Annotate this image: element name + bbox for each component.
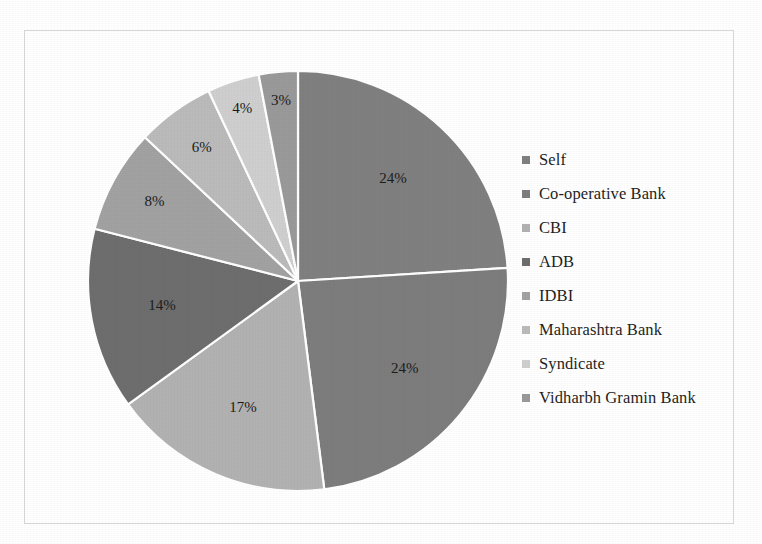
- legend-item-label: CBI: [539, 211, 567, 245]
- legend-item-label: Syndicate: [539, 347, 605, 381]
- legend-item[interactable]: CBI: [520, 211, 740, 245]
- pie-slices: [88, 71, 508, 491]
- legend-swatch-icon: [522, 360, 530, 368]
- legend-item[interactable]: Vidharbh Gramin Bank: [520, 381, 740, 415]
- legend-swatch-icon: [522, 190, 530, 198]
- pie-slice-label: 6%: [192, 139, 212, 155]
- pie-slice-label: 8%: [145, 193, 165, 209]
- pie-slice-label: 17%: [229, 399, 257, 415]
- legend-swatch-icon: [522, 394, 530, 402]
- legend-item[interactable]: ADB: [520, 245, 740, 279]
- chart-legend: SelfCo-operative BankCBIADBIDBIMaharasht…: [520, 143, 740, 415]
- pie-chart-svg: 24%24%17%14%8%6%4%3%: [81, 59, 511, 499]
- chart-frame: 24%24%17%14%8%6%4%3% SelfCo-operative Ba…: [24, 30, 734, 524]
- pie-slice-label: 24%: [379, 170, 407, 186]
- legend-item[interactable]: Self: [520, 143, 740, 177]
- legend-item[interactable]: IDBI: [520, 279, 740, 313]
- pie-slice-label: 4%: [232, 100, 252, 116]
- legend-item[interactable]: Maharashtra Bank: [520, 313, 740, 347]
- legend-swatch-icon: [522, 292, 530, 300]
- legend-item-label: Maharashtra Bank: [539, 313, 662, 347]
- legend-swatch-icon: [522, 258, 530, 266]
- legend-item-label: Self: [539, 143, 566, 177]
- pie-slice-label: 14%: [148, 297, 176, 313]
- legend-swatch-icon: [522, 326, 530, 334]
- legend-swatch-icon: [522, 156, 530, 164]
- legend-item-label: Co-operative Bank: [539, 177, 666, 211]
- legend-item-label: IDBI: [539, 279, 573, 313]
- legend-swatch-icon: [522, 224, 530, 232]
- legend-item[interactable]: Syndicate: [520, 347, 740, 381]
- legend-item-label: Vidharbh Gramin Bank: [539, 381, 696, 415]
- page-root: 24%24%17%14%8%6%4%3% SelfCo-operative Ba…: [0, 0, 762, 544]
- pie-slice[interactable]: [298, 268, 508, 490]
- legend-item[interactable]: Co-operative Bank: [520, 177, 740, 211]
- pie-slice-label: 3%: [271, 92, 291, 108]
- pie-chart: 24%24%17%14%8%6%4%3%: [81, 59, 511, 499]
- legend-item-label: ADB: [539, 245, 574, 279]
- pie-slice-label: 24%: [391, 360, 419, 376]
